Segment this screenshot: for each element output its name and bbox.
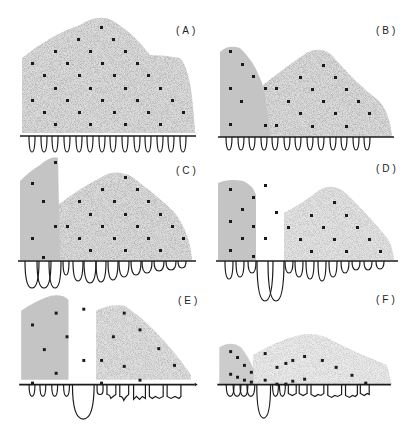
canopy-shape-dominant — [20, 157, 60, 260]
panel-a: (A) — [0, 0, 208, 143]
root-system — [25, 261, 186, 288]
canopy-shape-dominant — [21, 295, 68, 379]
panel-e: (E) — [0, 286, 208, 429]
root-system — [226, 385, 369, 419]
arrowhead — [195, 383, 198, 387]
panel-label: (F) — [376, 294, 398, 305]
panel-c: (C) — [0, 143, 208, 286]
panel-f: (F) — [208, 286, 416, 429]
root-system — [29, 385, 181, 420]
panel-e-diagram — [0, 286, 208, 429]
panel-label: (C) — [176, 165, 199, 176]
canopy-shape-dominant — [218, 180, 256, 260]
panel-b: (B) — [208, 0, 416, 143]
panel-label: (A) — [176, 25, 198, 36]
panel-b-diagram — [208, 0, 416, 143]
panel-a-diagram — [0, 0, 208, 143]
panel-label: (D) — [376, 163, 399, 174]
panel-f-diagram — [208, 286, 416, 429]
canopy-shape-dominant — [220, 47, 270, 137]
panel-d: (D) — [208, 143, 416, 286]
panel-label: (B) — [376, 25, 398, 36]
panel-label: (E) — [178, 295, 200, 306]
